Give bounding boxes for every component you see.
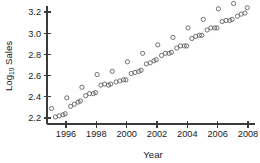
- axis-ticks: [44, 12, 249, 128]
- data-point: [125, 60, 129, 64]
- data-point: [95, 72, 99, 76]
- x-tick-labels: 1996199820002002200420062008: [56, 129, 258, 139]
- y-tick-labels: 2.22.42.62.83.03.2: [28, 7, 41, 123]
- data-point: [156, 43, 160, 47]
- x-tick-label: 2002: [147, 129, 167, 139]
- x-axis-title: Year: [143, 149, 163, 160]
- x-tick-label: 1996: [56, 129, 76, 139]
- y-tick-label: 3.2: [28, 7, 41, 17]
- data-point: [140, 51, 144, 55]
- data-point: [49, 106, 53, 110]
- data-point: [245, 6, 249, 10]
- data-point: [231, 1, 235, 5]
- data-point: [110, 69, 114, 73]
- axis-titles: YearLog10 Sales: [3, 41, 163, 160]
- data-point: [171, 35, 175, 39]
- y-tick-label: 2.6: [28, 71, 41, 81]
- y-tick-label: 2.4: [28, 92, 41, 102]
- data-point: [201, 17, 205, 21]
- data-point: [186, 26, 190, 30]
- x-tick-label: 2000: [116, 129, 136, 139]
- chart-figure: 1996199820002002200420062008 2.22.42.62.…: [0, 0, 260, 163]
- data-point: [65, 96, 69, 100]
- y-tick-label: 2.2: [28, 113, 41, 123]
- y-axis-title: Log10 Sales: [3, 41, 15, 91]
- data-point: [216, 7, 220, 11]
- x-tick-label: 1998: [86, 129, 106, 139]
- x-tick-label: 2006: [207, 129, 227, 139]
- data-point: [80, 85, 84, 89]
- data-points: [49, 1, 249, 119]
- y-tick-label: 2.8: [28, 50, 41, 60]
- data-point: [243, 11, 247, 15]
- x-tick-label: 2008: [238, 129, 258, 139]
- x-tick-label: 2004: [177, 129, 197, 139]
- scatter-plot: 1996199820002002200420062008 2.22.42.62.…: [0, 0, 260, 163]
- y-tick-label: 3.0: [28, 29, 41, 39]
